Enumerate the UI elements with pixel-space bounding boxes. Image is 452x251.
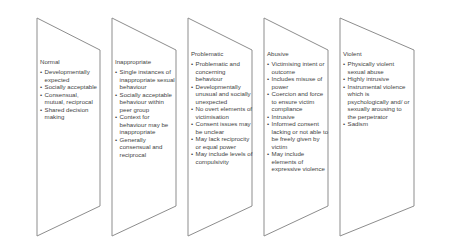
bullet-item: •Generally consensual and reciprocal [115,136,177,159]
panel-bullets-abusive: •Victimising intent or outcome •Includes… [267,60,329,173]
bullet-item: •May include levels of compulsivity [191,150,253,165]
bullet-dot-icon: • [191,120,193,128]
bullet-dot-icon: • [191,83,193,91]
panel-bullets-violent: •Physically violent sexual abuse •Highly… [343,60,411,128]
bullet-dot-icon: • [115,113,117,121]
bullet-item: •Socially acceptable behaviour within pe… [115,91,177,114]
bullet-dot-icon: • [115,136,117,144]
panel-shape-normal [37,18,100,236]
bullet-item: •Developmentally unusual and socially un… [191,83,253,106]
bullet-dot-icon: • [40,83,42,91]
panel-heading-inappropriate: Inappropriate [115,58,177,66]
bullet-item: •Includes misuse of power [267,75,329,90]
panel-bullets-problematic: •Problematic and concerning behaviour •D… [191,60,253,165]
panel-content-abusive: Abusive •Victimising intent or outcome •… [267,50,329,173]
panel-heading-problematic: Problematic [191,50,253,58]
bullet-item: •Coercion and force to ensure victim com… [267,90,329,113]
bullet-dot-icon: • [40,91,42,99]
bullet-dot-icon: • [40,68,42,76]
bullet-item: •Sadism [343,120,411,128]
bullet-dot-icon: • [115,91,117,99]
bullet-item: •Consent issues may be unclear [191,120,253,135]
bullet-item: •No overt elements of victimisation [191,105,253,120]
bullet-dot-icon: • [191,105,193,113]
bullet-dot-icon: • [343,75,345,83]
panel-content-normal: Normal •Developmentally expected •Social… [40,58,100,121]
bullet-dot-icon: • [267,75,269,83]
panel-heading-normal: Normal [40,58,100,66]
bullet-dot-icon: • [343,83,345,91]
bullet-dot-icon: • [115,68,117,76]
bullet-item: •Consensual, mutual, reciprocal [40,91,100,106]
bullet-item: •Informed consent lacking or not able to… [267,120,329,150]
bullet-dot-icon: • [343,120,345,128]
bullet-item: •Single instances of inappropriate sexua… [115,68,177,91]
bullet-dot-icon: • [191,60,193,68]
bullet-item: •May lack reciprocity or equal power [191,135,253,150]
bullet-item: •Highly intrusive [343,75,411,83]
panel-bullets-normal: •Developmentally expected •Socially acce… [40,68,100,121]
panel-heading-violent: Violent [343,50,411,58]
panel-content-violent: Violent •Physically violent sexual abuse… [343,50,411,128]
bullet-dot-icon: • [191,135,193,143]
panel-content-problematic: Problematic •Problematic and concerning … [191,50,253,165]
bullet-item: •Victimising intent or outcome [267,60,329,75]
bullet-item: •May include elements of expressive viol… [267,150,329,173]
bullet-item: •Socially acceptable [40,83,100,91]
bullet-item: •Instrumental violence which is psycholo… [343,83,411,121]
bullet-dot-icon: • [343,60,345,68]
bullet-item: •Problematic and concerning behaviour [191,60,253,83]
bullet-dot-icon: • [267,60,269,68]
bullet-dot-icon: • [267,113,269,121]
bullet-dot-icon: • [191,150,193,158]
bullet-item: •Developmentally expected [40,68,100,83]
panel-content-inappropriate: Inappropriate •Single instances of inapp… [115,58,177,158]
bullet-dot-icon: • [267,120,269,128]
bullet-item: •Shared decision making [40,106,100,121]
bullet-dot-icon: • [267,150,269,158]
bullet-dot-icon: • [267,90,269,98]
panel-heading-abusive: Abusive [267,50,329,58]
bullet-dot-icon: • [40,106,42,114]
panel-bullets-inappropriate: •Single instances of inappropriate sexua… [115,68,177,158]
continuum-diagram: Normal •Developmentally expected •Social… [0,0,452,251]
bullet-item: •Context for behaviour may be inappropri… [115,113,177,136]
bullet-item: •Intrusive [267,113,329,121]
bullet-item: •Physically violent sexual abuse [343,60,411,75]
